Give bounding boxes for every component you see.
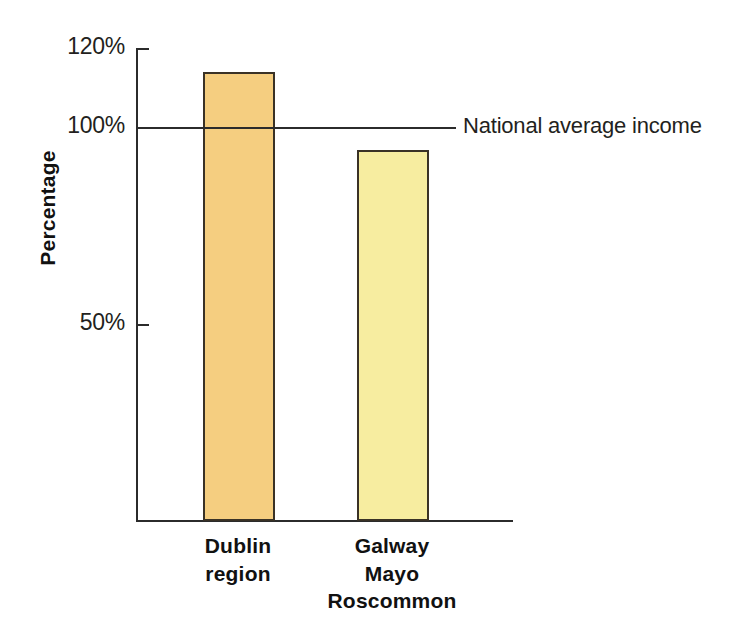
plot-area (138, 48, 513, 521)
x-category-label-galway-mayo-roscommon: Galway Mayo Roscommon (287, 532, 497, 615)
y-tick-label-100: 100% (67, 112, 125, 139)
national-average-label: National average income (463, 113, 702, 139)
national-average-line (136, 127, 456, 129)
x-category-label-gmr-line2: Mayo (287, 560, 497, 588)
x-category-label-gmr-line3: Roscommon (287, 587, 497, 615)
bar-chart-figure: Percentage 120% 100% 50% National averag… (0, 0, 745, 618)
y-axis-title: Percentage (36, 118, 60, 298)
y-tick-label-50: 50% (80, 309, 125, 336)
bar-galway-mayo-roscommon (357, 150, 429, 521)
bar-dublin-region (203, 72, 275, 521)
y-tick-label-120: 120% (67, 33, 125, 60)
x-category-label-gmr-line1: Galway (287, 532, 497, 560)
